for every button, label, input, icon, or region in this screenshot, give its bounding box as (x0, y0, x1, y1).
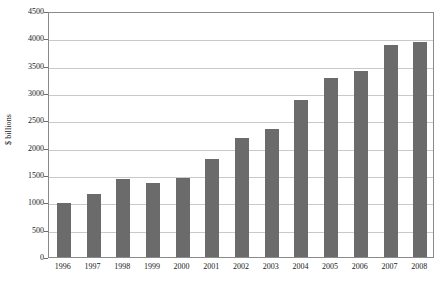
x-axis-tick-label: 2008 (399, 262, 439, 272)
bar (324, 78, 338, 257)
y-axis-tick-label: 3500 (4, 63, 44, 71)
bar (57, 203, 71, 257)
bar (176, 178, 190, 257)
bar (354, 71, 368, 257)
bar-chart: $ billions 05001000150020002500300035004… (0, 0, 442, 287)
y-axis-tick-label: 1000 (4, 199, 44, 207)
y-axis-tick-labels: 050010001500200025003000350040004500 (0, 12, 44, 258)
gridline (49, 122, 433, 123)
bar (146, 183, 160, 257)
bar (294, 100, 308, 257)
y-axis-tick-label: 4000 (4, 35, 44, 43)
gridline (49, 40, 433, 41)
y-axis-tick-label: 3000 (4, 90, 44, 98)
bar (116, 179, 130, 257)
y-axis-tick-label: 1500 (4, 172, 44, 180)
bar (384, 45, 398, 257)
y-axis-tick-label: 500 (4, 227, 44, 235)
bar (413, 42, 427, 257)
bar (87, 194, 101, 257)
bar (265, 129, 279, 258)
y-axis-tick-label: 2500 (4, 117, 44, 125)
y-axis-tick-label: 2000 (4, 145, 44, 153)
bar (235, 138, 249, 257)
plot-area (48, 12, 434, 258)
y-axis-tick-label: 0 (4, 254, 44, 262)
gridline (49, 68, 433, 69)
y-axis-tick-label: 4500 (4, 8, 44, 16)
bar (205, 159, 219, 257)
gridline (49, 95, 433, 96)
x-axis-tick-labels: 1996199719981999200020012002200320042005… (48, 262, 434, 278)
y-axis-tick-mark (44, 258, 48, 259)
